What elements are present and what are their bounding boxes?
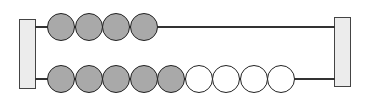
gray-bead (157, 65, 185, 93)
gray-bead (47, 65, 75, 93)
white-bead (212, 65, 240, 93)
gray-bead (47, 13, 75, 41)
gray-bead (102, 13, 130, 41)
white-bead (240, 65, 268, 93)
white-bead (185, 65, 213, 93)
gray-bead (75, 65, 103, 93)
gray-bead (130, 13, 158, 41)
gray-bead (130, 65, 158, 93)
white-bead (267, 65, 295, 93)
left-post (19, 19, 36, 89)
gray-bead (75, 13, 103, 41)
right-post (334, 17, 351, 87)
gray-bead (102, 65, 130, 93)
